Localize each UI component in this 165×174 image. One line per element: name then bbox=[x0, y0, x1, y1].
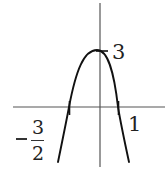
y-intercept-label: 3 bbox=[112, 42, 125, 63]
minus-sign bbox=[16, 138, 27, 140]
left-root-label: 3 2 bbox=[16, 118, 50, 164]
fraction-numerator: 3 bbox=[32, 118, 44, 137]
fraction-denominator: 2 bbox=[32, 144, 44, 163]
right-root-label: 1 bbox=[128, 114, 141, 135]
parabola-curve bbox=[58, 50, 129, 162]
parabola-graph: 3 1 3 2 bbox=[0, 0, 165, 174]
